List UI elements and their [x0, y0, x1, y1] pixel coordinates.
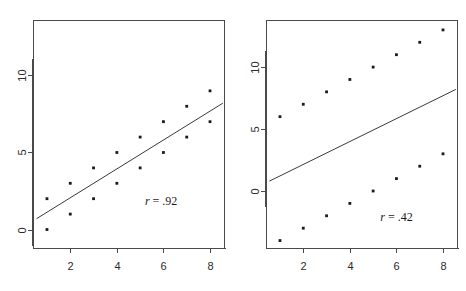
- x-tick-label: 6: [393, 260, 399, 272]
- data-point: [139, 166, 142, 169]
- data-point: [418, 41, 421, 44]
- y-tick-label: 5: [249, 126, 261, 132]
- plot-frame: [34, 21, 225, 249]
- data-point: [209, 89, 212, 92]
- data-point: [395, 177, 398, 180]
- data-point: [325, 90, 328, 93]
- y-axis: 0510: [16, 59, 33, 245]
- y-axis: 0510: [249, 51, 266, 207]
- data-point: [442, 29, 445, 32]
- data-point: [279, 239, 282, 242]
- scatterplot-panel-right: 05102468r = .42: [233, 0, 466, 291]
- scatterplot-panel-left: 05102468r = .92: [0, 0, 233, 291]
- data-point: [325, 214, 328, 217]
- correlation-value: = .92: [150, 194, 178, 208]
- x-tick-label: 4: [347, 260, 353, 272]
- regression-line: [269, 89, 455, 181]
- data-points: [279, 29, 445, 242]
- x-tick-label: 2: [300, 260, 306, 272]
- data-point: [372, 190, 375, 193]
- x-axis: 2468: [287, 248, 459, 272]
- data-point: [69, 213, 72, 216]
- y-tick-label: 0: [249, 188, 261, 194]
- correlation-value: = .42: [385, 210, 413, 224]
- x-tick-label: 4: [114, 260, 120, 272]
- two-scatterplot-figure: 05102468r = .92 05102468r = .42: [0, 0, 466, 291]
- y-tick-label: 10: [16, 69, 28, 81]
- data-point: [115, 151, 118, 154]
- data-point: [348, 202, 351, 205]
- data-point: [348, 78, 351, 81]
- data-points: [46, 89, 212, 230]
- data-point: [279, 115, 282, 118]
- data-point: [139, 136, 142, 139]
- x-tick-label: 6: [160, 260, 166, 272]
- data-point: [442, 152, 445, 155]
- data-point: [92, 197, 95, 200]
- y-tick-label: 0: [16, 227, 28, 233]
- data-point: [92, 166, 95, 169]
- y-tick-label: 10: [249, 61, 261, 73]
- data-point: [372, 66, 375, 69]
- scatter-svg-right: 05102468r = .42: [233, 0, 466, 291]
- data-point: [418, 165, 421, 168]
- y-tick-label: 5: [16, 149, 28, 155]
- data-point: [46, 228, 49, 231]
- data-point: [162, 151, 165, 154]
- x-axis: 2468: [54, 248, 226, 272]
- data-point: [302, 103, 305, 106]
- regression-line: [36, 103, 222, 219]
- data-point: [302, 227, 305, 230]
- data-point: [209, 120, 212, 123]
- data-point: [46, 197, 49, 200]
- data-point: [395, 53, 398, 56]
- correlation-annotation: r = .92: [145, 194, 177, 208]
- x-tick-label: 2: [67, 260, 73, 272]
- scatter-svg-left: 05102468r = .92: [0, 0, 233, 291]
- data-point: [185, 136, 188, 139]
- data-point: [115, 182, 118, 185]
- data-point: [162, 120, 165, 123]
- data-point: [69, 182, 72, 185]
- x-tick-label: 8: [440, 260, 446, 272]
- x-tick-label: 8: [207, 260, 213, 272]
- plot-frame: [267, 21, 458, 249]
- correlation-annotation: r = .42: [380, 210, 412, 224]
- data-point: [185, 105, 188, 108]
